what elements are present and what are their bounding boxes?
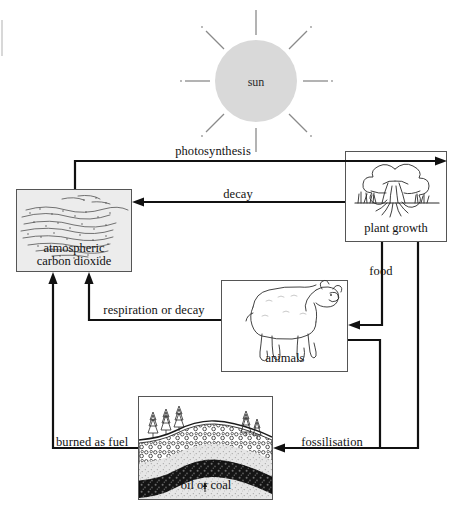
arrowhead-food <box>348 320 360 329</box>
arrowhead-respiration-or-decay <box>84 272 93 284</box>
carbon-cycle-diagram: sun atmospheric carbon dioxide plant gro… <box>0 0 455 522</box>
food-label: food <box>369 265 392 279</box>
fossilisation-label: fossilisation <box>301 436 363 450</box>
arrowhead-fossilisation <box>273 443 285 452</box>
decay-label: decay <box>223 188 253 202</box>
atmospheric-carbon-dioxide-caption: atmospheric carbon dioxide <box>37 242 112 268</box>
photosynthesis-label: photosynthesis <box>175 145 251 159</box>
burned-as-fuel-label: burned as fuel <box>56 436 128 450</box>
co2-caption-line2: carbon dioxide <box>37 255 112 268</box>
plant-growth-caption: plant growth <box>364 222 428 235</box>
oil-or-coal-caption: oil or coal <box>181 479 232 492</box>
respiration-or-decay-label: respiration or decay <box>103 304 204 318</box>
arrowhead-burned-as-fuel <box>48 272 57 284</box>
arrow-food <box>357 242 382 325</box>
animals-caption: animals <box>266 352 305 365</box>
arrowhead-decay <box>132 197 144 206</box>
sun-label: sun <box>248 75 265 90</box>
